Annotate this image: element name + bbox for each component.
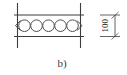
void-circle — [19, 20, 31, 32]
figure-caption: b) — [57, 57, 67, 70]
figure-container: 100 b) — [0, 0, 127, 75]
void-circle — [43, 20, 55, 32]
thickness-dimension-group: 100 — [100, 12, 120, 40]
hollow-core-slab-section-drawing: 100 b) — [0, 0, 127, 75]
void-circle — [67, 20, 79, 32]
thickness-dimension-label: 100 — [100, 18, 110, 32]
void-circles-group — [19, 20, 79, 32]
void-circle — [31, 20, 43, 32]
void-circle — [55, 20, 67, 32]
